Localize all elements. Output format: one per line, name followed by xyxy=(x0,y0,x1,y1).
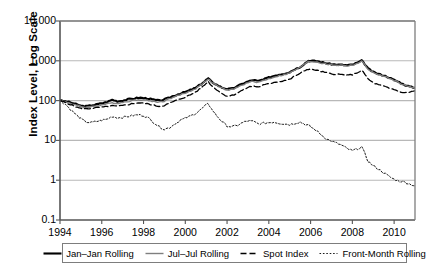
series-lines xyxy=(60,60,415,186)
series-line-jan-jan-rolling xyxy=(60,60,415,107)
legend-label: Jan–Jan Rolling xyxy=(66,248,134,259)
plot-frame xyxy=(60,21,415,220)
series-line-front-month-rolling xyxy=(60,100,415,186)
chart-legend: Jan–Jan RollingJul–Jul RollingSpot Index… xyxy=(62,243,407,263)
legend-swatch-solid xyxy=(43,250,62,257)
legend-swatch-solid xyxy=(145,250,164,257)
legend-label: Front-Month Rolling xyxy=(342,248,425,259)
chart-figure: Index Level, Log Scale 10,0001,000100101… xyxy=(0,0,436,274)
legend-item[interactable]: Front-Month Rolling xyxy=(319,248,425,259)
legend-item[interactable]: Spot Index xyxy=(240,248,308,259)
plot-area xyxy=(0,0,436,274)
legend-item[interactable]: Jan–Jan Rolling xyxy=(43,248,134,259)
legend-swatch-dashed xyxy=(240,250,259,257)
legend-label: Jul–Jul Rolling xyxy=(168,248,229,259)
legend-label: Spot Index xyxy=(263,248,308,259)
legend-swatch-dotted xyxy=(319,250,338,257)
legend-item[interactable]: Jul–Jul Rolling xyxy=(145,248,229,259)
